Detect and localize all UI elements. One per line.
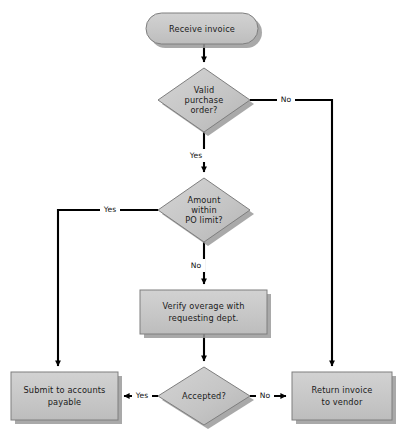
valid-purchase-order-label-line3: order? <box>190 105 217 115</box>
node-submit-to-accounts-payable[interactable]: Submit to accounts payable <box>11 372 122 424</box>
edge-label-no-top: No <box>281 95 292 104</box>
flowchart-canvas: Receive invoice Valid purchase order? Am… <box>0 0 402 442</box>
receive-invoice-label: Receive invoice <box>169 24 235 34</box>
edge-label-no-bottom: No <box>260 391 271 400</box>
return-invoice-to-vendor-label-line2: to vendor <box>322 397 363 407</box>
flowchart-svg: Receive invoice Valid purchase order? Am… <box>0 0 402 442</box>
edge-label-yes-top: Yes <box>189 151 203 160</box>
verify-overage-label-line2: requesting dept. <box>168 313 238 323</box>
edge-label-layer: No Yes Yes No Yes No <box>100 93 295 402</box>
edge-label-yes-mid: Yes <box>103 205 117 214</box>
amount-within-po-limit-label-line2: within <box>191 205 217 215</box>
accepted-label: Accepted? <box>182 391 226 401</box>
node-amount-within-po-limit[interactable]: Amount within PO limit? <box>158 178 254 246</box>
amount-within-po-limit-label-line3: PO limit? <box>185 215 223 225</box>
submit-to-accounts-payable-label-line1: Submit to accounts <box>23 385 105 395</box>
node-accepted[interactable]: Accepted? <box>158 367 254 429</box>
connector-amount-yes-to-submit <box>58 210 158 366</box>
node-return-invoice-to-vendor[interactable]: Return invoice to vendor <box>292 372 396 424</box>
edge-label-no-mid: No <box>191 261 202 270</box>
node-valid-purchase-order[interactable]: Valid purchase order? <box>158 68 254 136</box>
valid-purchase-order-label-line1: Valid <box>194 85 214 95</box>
verify-overage-label-line1: Verify overage with <box>162 301 244 311</box>
amount-within-po-limit-label-line1: Amount <box>187 195 221 205</box>
node-verify-overage[interactable]: Verify overage with requesting dept. <box>140 290 271 338</box>
node-receive-invoice[interactable]: Receive invoice <box>146 13 262 48</box>
return-invoice-to-vendor-label-line1: Return invoice <box>311 385 372 395</box>
submit-to-accounts-payable-label-line2: payable <box>48 397 82 407</box>
valid-purchase-order-label-line2: purchase <box>185 95 224 105</box>
edge-label-yes-bottom: Yes <box>135 391 149 400</box>
